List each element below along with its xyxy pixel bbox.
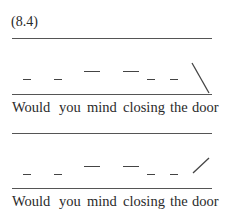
rising-tone-icon (0, 0, 227, 214)
word: closing (123, 193, 165, 210)
word: mind (87, 193, 117, 210)
word: you (59, 193, 81, 210)
word: Would (12, 193, 50, 210)
bottom-staff-line (12, 188, 212, 189)
word: door (192, 193, 219, 210)
word: the (170, 193, 188, 210)
